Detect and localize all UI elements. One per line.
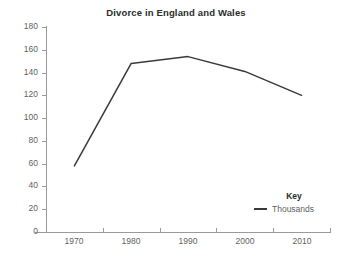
legend-item-label: Thousands [272,204,314,214]
data-line [74,57,301,166]
chart-legend: Key Thousands [246,191,342,214]
plot-area: 020406080100120140160180 197019801990200… [0,0,352,262]
series-line-thousands [0,0,352,262]
line-chart: Divorce in England and Wales 02040608010… [0,0,352,262]
legend-line-swatch-icon [254,208,267,209]
legend-item-thousands: Thousands [246,204,342,214]
legend-title: Key [246,191,342,201]
